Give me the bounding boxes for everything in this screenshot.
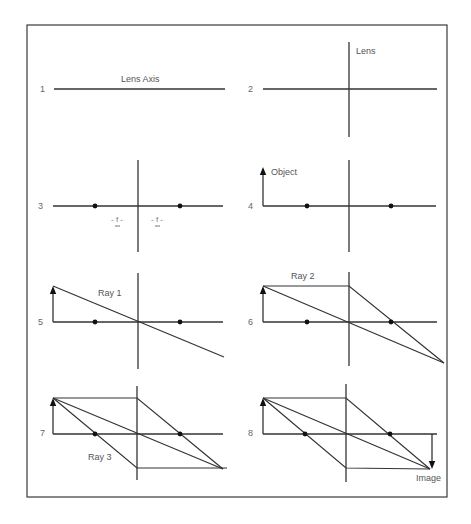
panel-number: 5 <box>38 317 43 327</box>
ray1-label: Ray 1 <box>98 288 122 298</box>
lens-ray-diagram: 12345678 Lens Axis Lens - f - - f - Obje… <box>0 0 471 524</box>
panel-number: 3 <box>38 201 43 211</box>
focal-point-dot <box>388 432 393 437</box>
focal-point-dot <box>305 320 310 325</box>
panel-number: 7 <box>40 428 45 438</box>
focal-point-dot <box>178 432 183 437</box>
focal-point-dot <box>178 204 183 209</box>
panel-number: 1 <box>40 84 45 94</box>
focal-point-dot <box>93 204 98 209</box>
image-label: Image <box>416 473 441 483</box>
focal-length-left-label: - f - <box>111 215 123 224</box>
panels: 12345678 <box>38 42 444 482</box>
ray2-label: Ray 2 <box>291 271 315 281</box>
focal-point-dot <box>303 432 308 437</box>
focal-point-dot <box>93 320 98 325</box>
panel-3: 3 <box>38 160 223 252</box>
panel-5: 5 <box>38 273 224 369</box>
panel-8: 8 <box>248 384 437 482</box>
panel-number: 2 <box>248 84 253 94</box>
panel-7: 7 <box>40 386 227 480</box>
panel-6: 6 <box>248 272 444 366</box>
focal-point-dot <box>389 320 394 325</box>
object-label: Object <box>271 167 298 177</box>
lens-axis-label: Lens Axis <box>121 74 160 84</box>
panel-number: 4 <box>248 201 253 211</box>
panel-number: 6 <box>248 317 253 327</box>
lens-label: Lens <box>356 46 376 56</box>
focal-length-right-label: - f - <box>151 215 163 224</box>
panel-2: 2 <box>248 42 437 137</box>
focal-point-dot <box>305 204 310 209</box>
object-arrow-icon <box>260 167 266 175</box>
ray-path <box>263 286 444 363</box>
ray3-label: Ray 3 <box>88 452 112 462</box>
image-arrow-icon <box>429 461 435 469</box>
focal-point-dot <box>93 432 98 437</box>
focal-point-dot <box>389 204 394 209</box>
panel-number: 8 <box>248 428 253 438</box>
focal-point-dot <box>178 320 183 325</box>
panel-1: 1 <box>40 84 225 94</box>
figure-frame <box>27 25 447 497</box>
